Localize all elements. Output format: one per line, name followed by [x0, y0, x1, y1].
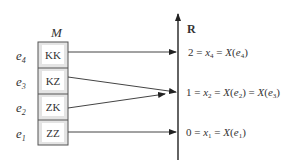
svg-text:2 = x4 = X(e4): 2 = x4 = X(e4)	[188, 46, 248, 60]
svg-text:e1: e1	[16, 126, 26, 143]
svg-text:1 = x2 = X(e2) = X(e3): 1 = x2 = X(e2) = X(e3)	[186, 86, 280, 100]
svg-text:e4: e4	[16, 48, 26, 65]
target-label-0: 0 = x1 = X(e1)	[186, 126, 246, 140]
target-label-2: 2 = x4 = X(e4)	[188, 46, 248, 60]
svg-text:0 = x1 = X(e1): 0 = x1 = X(e1)	[186, 126, 246, 140]
element-label-e4: e4	[16, 48, 26, 65]
element-label-e1: e1	[16, 126, 26, 143]
axis-label: R	[187, 22, 196, 36]
cell-zz: ZZ	[46, 127, 60, 139]
arrow-zk	[68, 94, 165, 108]
cell-zk: ZK	[46, 101, 61, 113]
element-label-e2: e2	[16, 100, 26, 117]
set-label: M	[50, 25, 63, 40]
svg-text:e2: e2	[16, 100, 26, 117]
arrow-kz	[68, 77, 176, 92]
cell-kz: KZ	[46, 75, 61, 87]
random-variable-diagram: M KK KZ ZK ZZ e4 e3 e2 e1 R 2 = x4 = X(e…	[0, 0, 301, 168]
svg-text:e3: e3	[16, 74, 26, 91]
element-label-e3: e3	[16, 74, 26, 91]
target-label-1: 1 = x2 = X(e2) = X(e3)	[186, 86, 280, 100]
cell-kk: KK	[45, 49, 61, 61]
